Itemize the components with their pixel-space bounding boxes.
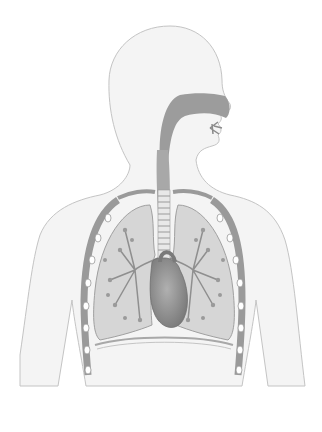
respiratory-system-diagram <box>0 0 322 432</box>
trachea <box>158 190 170 260</box>
